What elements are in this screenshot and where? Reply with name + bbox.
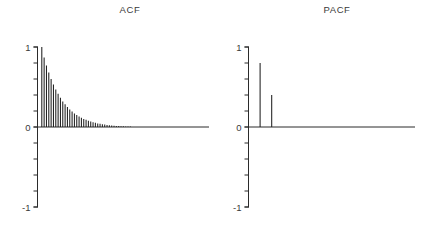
svg-text:-1: -1 <box>233 202 241 213</box>
pacf-plot: 10-1 <box>233 42 415 213</box>
svg-text:0: 0 <box>25 122 30 133</box>
svg-text:1: 1 <box>236 42 241 53</box>
acf-plot: 10-1 <box>22 42 209 213</box>
acf-pacf-figure: ACF PACF 10-1 10-1 <box>0 0 433 231</box>
svg-text:1: 1 <box>25 42 30 53</box>
svg-text:0: 0 <box>236 122 241 133</box>
svg-text:-1: -1 <box>22 202 30 213</box>
